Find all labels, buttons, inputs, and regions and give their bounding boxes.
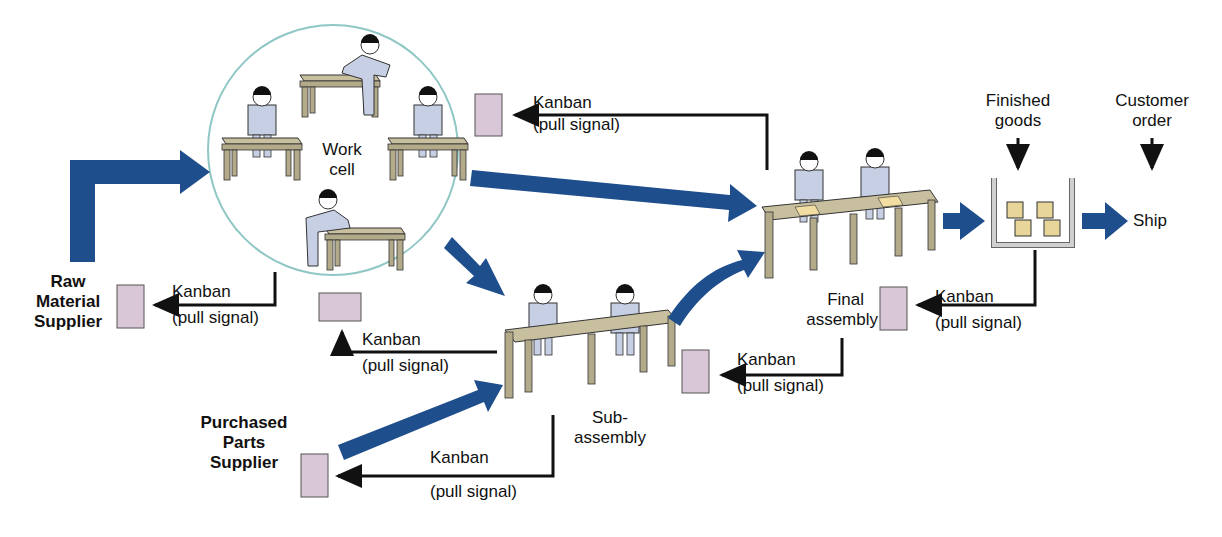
- label-line: assembly: [788, 310, 878, 330]
- kanban-card-2: [117, 285, 144, 328]
- flow-arrow-raw-to-cell: [70, 150, 210, 262]
- ship-label: Ship: [1133, 211, 1167, 231]
- label-line: Raw: [28, 272, 108, 292]
- kanban-label-6: Kanban (pull signal): [430, 448, 517, 502]
- kanban-card-3: [319, 293, 361, 321]
- kanban-label-1: Kanban (pull signal): [533, 93, 620, 135]
- kanban-card-5: [682, 350, 709, 393]
- label-line: Material: [28, 292, 108, 312]
- label-line: assembly: [565, 428, 655, 448]
- work-cell-label: Work cell: [310, 140, 374, 180]
- label-line: cell: [310, 160, 374, 180]
- kanban-label-5: Kanban (pull signal): [737, 350, 824, 396]
- finished-goods-label: Finished goods: [975, 91, 1061, 131]
- subassembly-station: [505, 284, 678, 398]
- label-line: goods: [975, 111, 1061, 131]
- kanban-label-2: Kanban (pull signal): [172, 282, 259, 328]
- kanban-card-1: [475, 94, 502, 136]
- kanban-subtitle: (pull signal): [935, 313, 1022, 333]
- flow-arrow-final-to-bin: [943, 202, 985, 240]
- label-line: Finished: [975, 91, 1061, 111]
- kanban-subtitle: (pull signal): [172, 308, 259, 328]
- kanban-title: Kanban: [362, 330, 449, 350]
- purchased-parts-supplier-label: Purchased Parts Supplier: [192, 413, 296, 473]
- kanban-title: Kanban: [533, 93, 620, 113]
- label-line: Customer: [1100, 91, 1204, 111]
- kanban-subtitle: (pull signal): [430, 482, 517, 502]
- kanban-label-3: Kanban (pull signal): [362, 330, 449, 376]
- kanban-subtitle: (pull signal): [362, 356, 449, 376]
- label-line: Supplier: [192, 453, 296, 473]
- flow-arrow-sub-to-final: [668, 250, 765, 326]
- finished-goods-bin: [994, 178, 1072, 245]
- customer-order-label: Customer order: [1100, 91, 1204, 131]
- label-line: Work: [310, 140, 374, 160]
- kanban-title: Kanban: [737, 350, 824, 370]
- label-line: Parts: [192, 433, 296, 453]
- label-line: Sub-: [565, 408, 655, 428]
- kanban-title: Kanban: [172, 282, 259, 302]
- flow-arrow-cell-to-sub: [444, 237, 505, 296]
- kanban-card-6: [301, 454, 328, 497]
- kanban-subtitle: (pull signal): [737, 376, 824, 396]
- kanban-label-4: Kanban (pull signal): [935, 287, 1022, 333]
- raw-material-supplier-label: Raw Material Supplier: [28, 272, 108, 332]
- flow-arrow-cell-to-final: [470, 170, 757, 222]
- flow-arrow-bin-to-ship: [1082, 202, 1128, 240]
- kanban-subtitle: (pull signal): [533, 115, 620, 135]
- kanban-card-4: [880, 287, 907, 330]
- label-line: Supplier: [28, 312, 108, 332]
- final-assembly-station: [762, 148, 938, 278]
- label-line: Purchased: [192, 413, 296, 433]
- final-assembly-label: Final assembly: [788, 290, 878, 330]
- kanban-title: Kanban: [935, 287, 1022, 307]
- label-line: Final: [788, 290, 878, 310]
- subassembly-label: Sub- assembly: [565, 408, 655, 448]
- label-line: order: [1100, 111, 1204, 131]
- kanban-title: Kanban: [430, 448, 517, 468]
- diagram-canvas: [0, 0, 1222, 537]
